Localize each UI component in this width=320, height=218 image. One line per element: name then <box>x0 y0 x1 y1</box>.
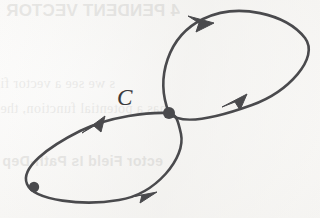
lower-loop-path <box>26 113 182 203</box>
lower-loop-stroke <box>26 113 182 203</box>
lower-loop-left-arrow-icon <box>82 116 105 133</box>
figure-canvas: 4 PENDENT VECTOR s we see a vector fi ha… <box>0 0 320 218</box>
lower-left-node-dot <box>29 182 39 192</box>
self-intersection-node-dot <box>163 107 175 119</box>
curve-label-c: C <box>117 86 132 109</box>
lower-loop-bottom-arrow-icon <box>131 192 157 203</box>
upper-loop-top-arrow-icon <box>188 16 214 32</box>
figure-eight-curve-svg <box>0 0 320 218</box>
